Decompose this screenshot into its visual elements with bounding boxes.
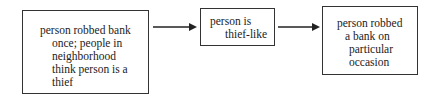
arrow-n2-to-n3 (278, 23, 320, 31)
edges-layer (0, 0, 437, 105)
arrow-n1-to-n2 (153, 23, 197, 31)
